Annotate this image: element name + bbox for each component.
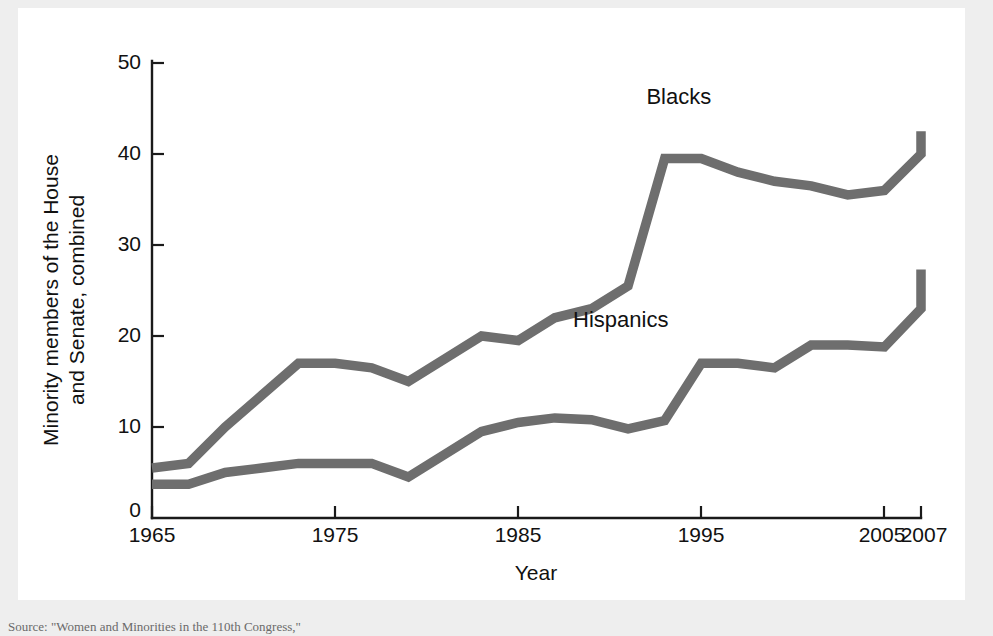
y-axis-title: Minority members of the House and Senate… xyxy=(39,154,88,446)
y-tick-label-30: 30 xyxy=(118,232,141,255)
y-tick-label-10: 10 xyxy=(118,414,141,437)
x-tick-label-1985: 1985 xyxy=(495,523,542,546)
x-tick-label-2005: 2005 xyxy=(859,523,906,546)
line-chart: Minority members of the House and Senate… xyxy=(18,8,965,600)
x-tick-label-1995: 1995 xyxy=(678,523,725,546)
series-line-hispanics xyxy=(152,270,921,485)
y-tick-label-50: 50 xyxy=(118,50,141,73)
y-axis-title-line2: and Senate, combined xyxy=(65,195,88,405)
figure-panel: Minority members of the House and Senate… xyxy=(18,8,965,600)
x-axis-title: Year xyxy=(515,561,557,584)
y-tick-label-20: 20 xyxy=(118,323,141,346)
chart-svg: Minority members of the House and Senate… xyxy=(18,8,965,600)
x-tick-label-2007: 2007 xyxy=(901,523,948,546)
series-label-blacks: Blacks xyxy=(646,84,711,109)
y-tick-label-40: 40 xyxy=(118,141,141,164)
x-tick-label-1975: 1975 xyxy=(312,523,359,546)
x-tick-label-1965: 1965 xyxy=(129,523,176,546)
y-tick-label-0: 0 xyxy=(129,498,141,521)
y-axis-title-line1: Minority members of the House xyxy=(39,154,62,446)
source-note: Source: "Women and Minorities in the 110… xyxy=(8,619,993,636)
series-label-hispanics: Hispanics xyxy=(573,307,668,332)
page-root: Minority members of the House and Senate… xyxy=(0,0,993,636)
